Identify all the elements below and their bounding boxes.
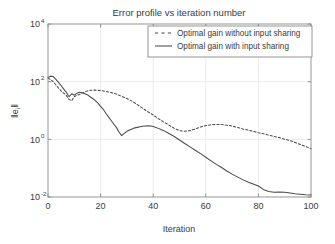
figure-container: 02040608010010-2100102104 Error profile …: [0, 0, 335, 244]
y-tick-label: 102: [30, 74, 45, 87]
legend-label-1[interactable]: Optimal gain with input sharing: [177, 42, 289, 51]
y-tick-label: 10-2: [30, 190, 47, 203]
x-tick-label: 20: [96, 201, 106, 211]
svg-text:0: 0: [41, 132, 45, 139]
svg-text:10: 10: [30, 77, 40, 87]
svg-text:2: 2: [41, 74, 45, 81]
y-axis-label: ‖ei‖: [10, 104, 21, 118]
svg-text:10: 10: [30, 19, 40, 29]
x-tick-label: 60: [201, 201, 211, 211]
x-tick-label: 0: [45, 201, 50, 211]
svg-text:10: 10: [30, 135, 40, 145]
y-tick-label: 100: [30, 132, 45, 145]
svg-text:-2: -2: [41, 190, 47, 197]
series-line-0: [48, 78, 311, 148]
y-tick-label: 104: [30, 17, 45, 30]
x-tick-label: 80: [253, 201, 263, 211]
y-axis-label-text: ‖ei‖: [10, 104, 21, 118]
legend-label-0[interactable]: Optimal gain without input sharing: [177, 29, 301, 38]
legend[interactable]: Optimal gain without input sharingOptima…: [148, 26, 312, 57]
svg-text:10: 10: [30, 192, 40, 202]
chart-title: Error profile vs iteration number: [112, 7, 245, 18]
svg-text:4: 4: [41, 17, 45, 24]
error-profile-chart: 02040608010010-2100102104 Error profile …: [0, 0, 335, 244]
x-axis-label: Iteration: [163, 224, 196, 234]
x-tick-label: 40: [148, 201, 158, 211]
x-tick-label: 100: [303, 201, 318, 211]
plot-lines-layer: [48, 76, 311, 195]
